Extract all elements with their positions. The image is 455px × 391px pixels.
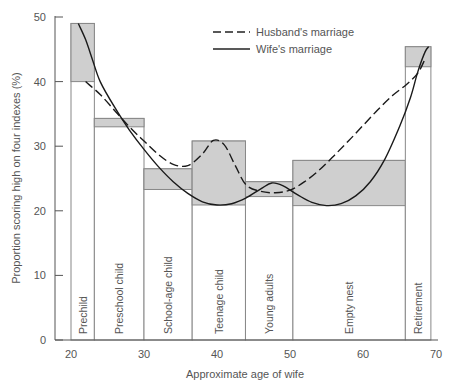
x-tick-label: 70 [430,348,442,360]
y-tick-label: 0 [40,334,46,346]
chart-canvas: 01020304050203040506070 PrechildPreschoo… [0,0,455,391]
x-axis-title: Approximate age of wife [186,368,304,380]
x-tick-label: 60 [357,348,369,360]
x-tick-label: 40 [211,348,223,360]
y-axis-title: Proportion scoring high on four indexes … [10,72,22,284]
stage-range-shade [293,160,405,205]
stage-label: Empty nest [343,281,355,334]
legend-label-husband: Husband's marriage [256,26,354,38]
legend: Husband's marriage Wife's marriage [213,26,354,55]
y-tick-label: 20 [34,205,46,217]
stage-label: Prechild [77,296,89,334]
stage-range-shade [192,141,245,205]
stage-label: School-age child [162,256,174,334]
y-tick-label: 30 [34,140,46,152]
x-tick-label: 20 [65,348,77,360]
stage-label: Young adults [263,274,275,334]
stage-label: Teenage child [213,269,225,334]
x-tick-label: 30 [138,348,150,360]
stage-label: Retirement [412,283,424,334]
stage-range-shade [405,47,431,67]
stage-range-shade [144,169,192,190]
y-tick-label: 40 [34,76,46,88]
legend-label-wife: Wife's marriage [256,43,332,55]
stage-label: Preschool child [113,263,125,334]
stage-range-shade [94,118,144,126]
y-tick-label: 10 [34,269,46,281]
y-tick-label: 50 [34,11,46,23]
x-tick-label: 50 [284,348,296,360]
